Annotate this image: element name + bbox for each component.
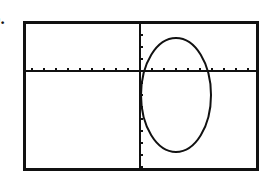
- calculator-graph: [0, 0, 276, 176]
